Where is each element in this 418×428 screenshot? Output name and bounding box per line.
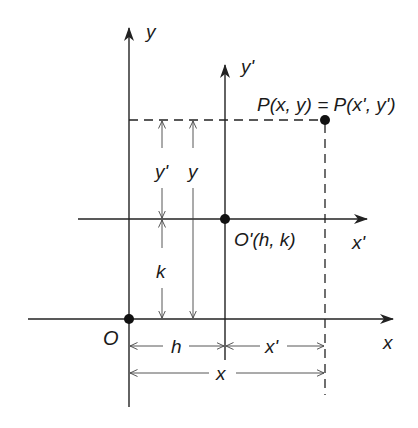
dimension-label-y-prime: y'	[153, 161, 170, 182]
dimension-label-x: x	[215, 363, 227, 384]
new-origin-point	[220, 214, 230, 224]
point-p	[320, 115, 330, 125]
new-origin-label: O'(h, k)	[234, 229, 296, 250]
dimension-label-k: k	[156, 261, 167, 282]
x-prime-axis-label: x'	[351, 232, 367, 253]
y-axis-label: y	[144, 21, 157, 42]
dimension-label-h: h	[171, 336, 182, 357]
point-p-label: P(x, y) = P(x', y')	[257, 94, 396, 115]
dimension-label-y: y	[186, 161, 199, 182]
x-axis-label: x	[382, 332, 394, 353]
translation-of-axes-diagram: y x y' x' O O'(h, k) P(x, y) = P(x', y')…	[0, 0, 418, 428]
origin-point	[124, 314, 134, 324]
y-prime-axis-label: y'	[239, 56, 256, 77]
dimension-label-x-prime: x'	[264, 336, 280, 357]
origin-label: O	[103, 327, 119, 349]
